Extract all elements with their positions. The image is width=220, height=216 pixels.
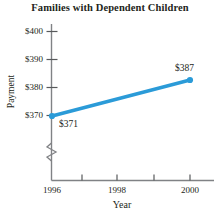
x-tick-label-1996: 1996 <box>35 185 69 195</box>
x-tick-label-2000: 2000 <box>173 185 207 195</box>
data-label-387: $387 <box>175 63 194 74</box>
data-point-1996 <box>49 113 55 119</box>
chart-container: Families with Dependent Children $400 $3… <box>0 0 220 216</box>
x-axis-title: Year <box>92 199 152 211</box>
y-tick-label-400: $400 <box>11 26 43 36</box>
data-label-371: $371 <box>59 119 78 130</box>
data-point-2000 <box>187 77 193 83</box>
y-axis-title: Payment <box>6 62 17 122</box>
data-line-payment <box>52 80 190 116</box>
x-tick-label-1998: 1998 <box>100 185 134 195</box>
